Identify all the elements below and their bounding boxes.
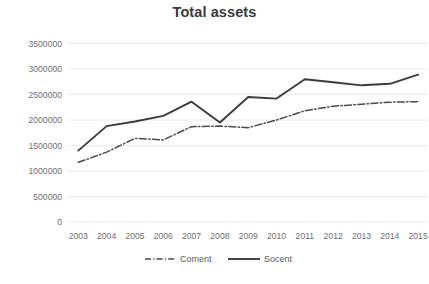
y-axis-tick-labels: 0500000100000015000002000000250000030000… bbox=[29, 39, 63, 228]
x-tick-label: 2005 bbox=[125, 231, 144, 241]
y-tick-label: 3500000 bbox=[29, 39, 63, 49]
plot-area: 0500000100000015000002000000250000030000… bbox=[0, 0, 429, 284]
x-tick-label: 2007 bbox=[182, 231, 201, 241]
x-tick-label: 2006 bbox=[154, 231, 173, 241]
gridlines-group bbox=[68, 44, 427, 223]
y-tick-label: 2500000 bbox=[29, 90, 63, 100]
chart-container: Total assets 050000010000001500000200000… bbox=[0, 0, 429, 284]
y-tick-label: 2000000 bbox=[29, 115, 63, 125]
y-tick-label: 500000 bbox=[33, 192, 62, 202]
y-tick-label: 1500000 bbox=[29, 141, 63, 151]
legend-label-coment[interactable]: Coment bbox=[180, 254, 212, 264]
line-chart-svg: 0500000100000015000002000000250000030000… bbox=[0, 0, 429, 284]
y-tick-label: 3000000 bbox=[29, 64, 63, 74]
x-tick-label: 2012 bbox=[324, 231, 343, 241]
x-tick-label: 2013 bbox=[352, 231, 371, 241]
data-series-group bbox=[78, 75, 418, 163]
y-tick-label: 0 bbox=[57, 217, 62, 227]
x-tick-label: 2009 bbox=[239, 231, 258, 241]
x-tick-label: 2011 bbox=[296, 231, 315, 241]
series-line-coment bbox=[78, 102, 418, 163]
x-tick-label: 2010 bbox=[267, 231, 286, 241]
series-line-socent bbox=[78, 75, 418, 151]
y-tick-label: 1000000 bbox=[29, 166, 63, 176]
x-tick-label: 2014 bbox=[380, 231, 399, 241]
legend-label-socent[interactable]: Socent bbox=[264, 254, 293, 264]
x-tick-label: 2004 bbox=[97, 231, 116, 241]
x-tick-label: 2008 bbox=[210, 231, 229, 241]
x-axis-tick-labels: 2003200420052006200720082009201020112012… bbox=[69, 231, 428, 241]
x-tick-label: 2003 bbox=[69, 231, 88, 241]
chart-legend: ComentSocent bbox=[145, 254, 293, 264]
x-tick-label: 2015 bbox=[409, 231, 428, 241]
